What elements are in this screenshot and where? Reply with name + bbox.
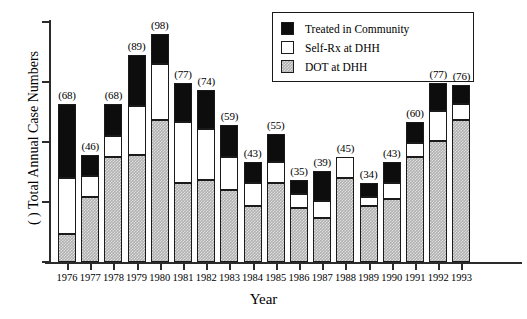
bar-segment-selfrx[interactable]: [360, 197, 378, 206]
legend-item-community[interactable]: Treated in Community: [281, 19, 465, 38]
bar-total-label: (74): [183, 75, 229, 87]
bar-segment-dot[interactable]: [197, 180, 215, 262]
bar-segment-selfrx[interactable]: [383, 183, 401, 199]
bar-total-label: (60): [392, 107, 438, 119]
bar-total-label: (89): [114, 40, 160, 52]
x-axis-title: Year: [0, 291, 527, 308]
x-axis-tick: [415, 264, 417, 270]
bar-1979[interactable]: [128, 55, 146, 262]
bar-total-label: (68): [90, 89, 136, 101]
bar-segment-community[interactable]: [81, 155, 99, 176]
legend-swatch-selfrx-icon: [281, 41, 294, 54]
x-axis-tick: [345, 264, 347, 270]
x-axis-tick: [461, 264, 463, 270]
bar-segment-selfrx[interactable]: [290, 194, 308, 208]
x-axis-tick: [369, 264, 371, 270]
bar-segment-dot[interactable]: [174, 183, 192, 262]
bar-total-label: (68): [44, 89, 90, 101]
chart-figure: ( ) Total Annual Case Numbers Year 19761…: [0, 0, 527, 319]
bar-segment-dot[interactable]: [429, 141, 447, 262]
x-axis-tick: [229, 264, 231, 270]
bar-segment-dot[interactable]: [267, 183, 285, 262]
bar-1983[interactable]: [220, 125, 238, 262]
bar-segment-community[interactable]: [244, 162, 262, 183]
bar-segment-community[interactable]: [360, 183, 378, 197]
x-axis-tick: [90, 264, 92, 270]
bar-segment-dot[interactable]: [313, 218, 331, 262]
bar-total-label: (43): [369, 147, 415, 159]
x-axis-tick: [67, 264, 69, 270]
y-axis-tick: [42, 21, 50, 23]
x-axis-tick: [137, 264, 139, 270]
x-axis-tick: [183, 264, 185, 270]
bar-segment-selfrx[interactable]: [452, 104, 470, 120]
legend-swatch-community-icon: [281, 22, 294, 35]
bar-segment-selfrx[interactable]: [220, 157, 238, 190]
bar-segment-selfrx[interactable]: [313, 201, 331, 217]
x-axis-tick: [438, 264, 440, 270]
bar-1978[interactable]: [104, 104, 122, 262]
bar-total-label: (59): [206, 110, 252, 122]
x-axis-tick: [276, 264, 278, 270]
bar-total-label: (39): [299, 156, 345, 168]
bar-segment-dot[interactable]: [360, 206, 378, 262]
bar-total-label: (55): [253, 119, 299, 131]
bar-segment-community[interactable]: [174, 83, 192, 123]
legend-swatch-dot-icon: [281, 60, 294, 73]
bar-total-label: (34): [346, 168, 392, 180]
x-axis-tick: [299, 264, 301, 270]
bar-segment-dot[interactable]: [290, 208, 308, 262]
bar-segment-selfrx[interactable]: [58, 178, 76, 234]
bar-1986[interactable]: [290, 180, 308, 262]
bar-segment-dot[interactable]: [244, 206, 262, 262]
bar-1991[interactable]: [406, 122, 424, 262]
x-axis-label-1993: 1993: [438, 272, 484, 283]
x-axis-tick: [392, 264, 394, 270]
bar-segment-dot[interactable]: [81, 197, 99, 262]
y-axis-tick: [42, 81, 50, 83]
x-axis-tick: [322, 264, 324, 270]
bar-1977[interactable]: [81, 155, 99, 262]
y-axis-tick: [42, 201, 50, 203]
bar-1989[interactable]: [360, 183, 378, 262]
bar-segment-dot[interactable]: [104, 157, 122, 262]
bar-segment-dot[interactable]: [220, 190, 238, 262]
bar-segment-community[interactable]: [406, 122, 424, 143]
x-axis-tick: [253, 264, 255, 270]
bar-segment-dot[interactable]: [406, 157, 424, 262]
y-axis-tick: [42, 261, 50, 263]
legend-label: DOT at DHH: [305, 61, 367, 73]
bar-1976[interactable]: [58, 104, 76, 262]
bar-segment-dot[interactable]: [58, 234, 76, 262]
bar-1984[interactable]: [244, 162, 262, 262]
x-axis-tick: [206, 264, 208, 270]
y-axis-tick: [42, 141, 50, 143]
legend-item-selfrx[interactable]: Self-Rx at DHH: [281, 38, 465, 57]
y-axis-title: ( ) Total Annual Case Numbers: [26, 8, 42, 268]
bar-segment-selfrx[interactable]: [128, 106, 146, 155]
legend-label: Self-Rx at DHH: [305, 42, 380, 54]
x-axis-tick: [113, 264, 115, 270]
x-axis-line: [45, 262, 522, 264]
bar-segment-community[interactable]: [290, 180, 308, 194]
legend-label: Treated in Community: [305, 23, 409, 35]
bar-segment-selfrx[interactable]: [197, 129, 215, 180]
bar-total-label: (98): [137, 19, 183, 31]
bar-segment-dot[interactable]: [336, 178, 354, 262]
bar-total-label: (45): [322, 142, 368, 154]
bar-total-label: (46): [67, 140, 113, 152]
bar-segment-dot[interactable]: [452, 120, 470, 262]
bar-segment-dot[interactable]: [383, 199, 401, 262]
bar-segment-selfrx[interactable]: [81, 176, 99, 197]
bar-segment-selfrx[interactable]: [244, 183, 262, 206]
bar-1981[interactable]: [174, 83, 192, 262]
bar-total-label: (76): [438, 70, 484, 82]
bar-total-label: (43): [230, 147, 276, 159]
bar-segment-dot[interactable]: [128, 155, 146, 262]
bar-1993[interactable]: [452, 85, 470, 262]
bar-segment-community[interactable]: [452, 85, 470, 104]
bar-segment-community[interactable]: [104, 104, 122, 137]
bar-segment-dot[interactable]: [151, 120, 169, 262]
bar-segment-selfrx[interactable]: [174, 122, 192, 183]
bar-1987[interactable]: [313, 171, 331, 262]
